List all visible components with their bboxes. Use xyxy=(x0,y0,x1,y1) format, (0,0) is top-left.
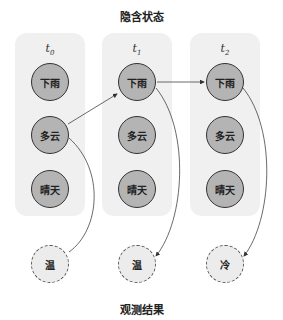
state-node-rain-t2: 下雨 xyxy=(206,63,244,101)
observation-node-t1: 温 xyxy=(118,245,156,283)
emission-edge xyxy=(69,138,94,252)
state-node-sunny-t0: 晴天 xyxy=(31,170,69,208)
emission-edge xyxy=(156,88,180,256)
state-node-cloudy-t0: 多云 xyxy=(31,116,69,154)
observations-title: 观测结果 xyxy=(0,301,283,317)
state-node-sunny-t1: 晴天 xyxy=(118,170,156,208)
state-node-rain-t1: 下雨 xyxy=(118,63,156,101)
observation-node-t0: 温 xyxy=(31,245,69,283)
state-node-rain-t0: 下雨 xyxy=(31,63,69,101)
state-node-cloudy-t1: 多云 xyxy=(118,116,156,154)
emission-edge xyxy=(243,88,267,256)
state-node-cloudy-t2: 多云 xyxy=(206,116,244,154)
state-node-sunny-t2: 晴天 xyxy=(206,170,244,208)
observation-node-t2: 冷 xyxy=(206,245,244,283)
transition-edge xyxy=(68,94,117,124)
